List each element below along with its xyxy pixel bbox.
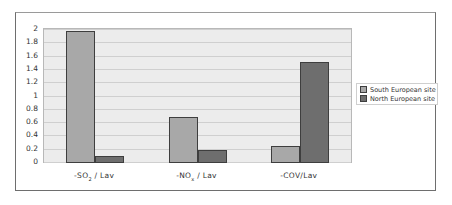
x-tick-label: -SO2 / Lav — [44, 171, 144, 182]
y-tick-label: 0.4 — [14, 130, 38, 139]
y-tick-label: 1.8 — [14, 37, 38, 46]
y-tick-label: 2 — [14, 24, 38, 33]
legend-swatch-south — [360, 86, 367, 93]
y-tick-label: 1.2 — [14, 77, 38, 86]
bar-south-1 — [169, 117, 198, 163]
bar-south-0 — [66, 31, 95, 163]
legend: South European site North European site — [356, 83, 438, 105]
legend-label-south: South European site — [370, 86, 436, 94]
y-tick-label: 1.6 — [14, 51, 38, 60]
y-tick-label: 0.8 — [14, 104, 38, 113]
legend-item-south: South European site — [360, 86, 436, 94]
legend-item-north: North European site — [360, 95, 435, 103]
y-tick-label: 1 — [14, 91, 38, 100]
y-tick-label: 1.4 — [14, 64, 38, 73]
bar-north-0 — [95, 156, 124, 163]
gridline — [44, 29, 351, 30]
plot-area — [43, 28, 352, 163]
x-tick-label: -NOx / Lav — [147, 171, 247, 182]
bar-north-1 — [198, 150, 227, 163]
legend-swatch-north — [360, 95, 367, 102]
bar-south-2 — [271, 146, 300, 163]
y-tick-label: 0.6 — [14, 117, 38, 126]
bar-north-2 — [300, 62, 329, 163]
y-tick-label: 0.2 — [14, 144, 38, 153]
x-tick-label: -COV/Lav — [249, 171, 349, 180]
legend-label-north: North European site — [370, 95, 435, 103]
y-tick-label: 0 — [14, 157, 38, 166]
